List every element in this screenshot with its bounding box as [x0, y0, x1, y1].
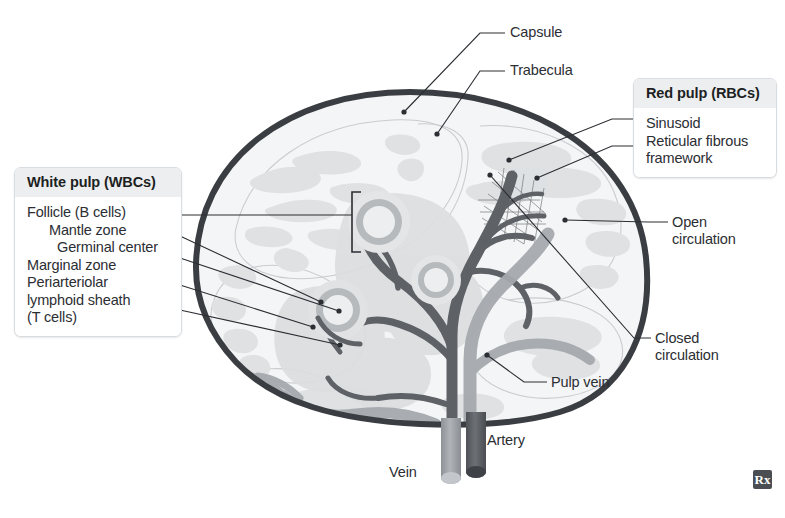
label-open-circulation: Open circulation	[672, 214, 736, 248]
legend-item-sinusoid[interactable]: Sinusoid	[646, 115, 764, 133]
follicle-middle	[411, 255, 461, 305]
legend-item-germinal-center[interactable]: Germinal center	[27, 239, 169, 257]
rx-logo-badge: Rx	[753, 470, 772, 489]
label-closed-circulation: Closed circulation	[655, 330, 719, 364]
label-trabecula: Trabecula	[510, 62, 573, 79]
callout-red-pulp[interactable]: Red pulp (RBCs) Sinusoid Reticular fibro…	[633, 78, 777, 178]
callout-white-pulp[interactable]: White pulp (WBCs) Follicle (B cells) Man…	[14, 167, 182, 337]
legend-item-follicle[interactable]: Follicle (B cells)	[27, 204, 169, 222]
figure-canvas: White pulp (WBCs) Follicle (B cells) Man…	[0, 0, 785, 518]
legend-item-mantle-zone[interactable]: Mantle zone	[27, 222, 169, 240]
legend-item-pals-line3[interactable]: (T cells)	[27, 309, 169, 327]
label-capsule: Capsule	[510, 24, 562, 41]
callout-white-pulp-title: White pulp (WBCs)	[15, 168, 181, 197]
label-pulp-vein: Pulp vein	[551, 374, 609, 391]
label-artery: Artery	[487, 432, 525, 449]
legend-item-reticular-line1[interactable]: Reticular fibrous	[646, 133, 764, 151]
legend-item-pals-line1[interactable]: Periarteriolar	[27, 274, 169, 292]
artery-lumen	[466, 466, 486, 478]
legend-item-marginal-zone[interactable]: Marginal zone	[27, 257, 169, 275]
legend-item-reticular-line2[interactable]: framework	[646, 150, 764, 168]
callout-red-pulp-body: Sinusoid Reticular fibrous framework	[634, 108, 776, 177]
legend-item-pals-line2[interactable]: lymphoid sheath	[27, 292, 169, 310]
vein-lumen	[441, 472, 461, 484]
rx-logo-text: Rx	[755, 473, 771, 486]
follicle-upper	[348, 191, 410, 253]
callout-red-pulp-title: Red pulp (RBCs)	[634, 79, 776, 108]
label-vein: Vein	[389, 464, 417, 481]
callout-white-pulp-body: Follicle (B cells) Mantle zone Germinal …	[15, 197, 181, 336]
